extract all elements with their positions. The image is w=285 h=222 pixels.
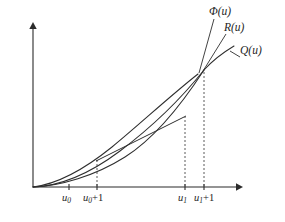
tick-label-u0: u0 [62,193,71,204]
x-axis-arrowhead [236,183,243,191]
tick-label-u1-subscript: 1 [183,196,187,205]
tick-label-u1: u1 [178,193,187,204]
leader-line-r [203,34,226,71]
curve-q-tail [204,46,234,70]
curve-r [33,70,204,187]
curve-label-r: R(u) [224,22,244,34]
curve-label-q: Q(u) [240,45,262,57]
tick-label-u0-subscript: 0 [67,196,71,205]
figure-container: Φ(u) R(u) Q(u) u0 u0+1 u1 u1+1 [0,0,285,222]
y-axis-arrowhead [29,22,36,29]
tick-label-u0-plus-1-suffix: +1 [92,192,103,203]
curve-q [33,70,204,187]
tick-label-u1-plus-1-suffix: +1 [203,192,214,203]
curve-label-phi: Φ(u) [209,6,231,18]
tick-label-u1-plus-1-subscript: 1 [199,196,203,205]
curve-phi [33,74,198,187]
leader-line-q [230,51,240,57]
tick-label-u0-plus-1-subscript: 0 [88,196,92,205]
tick-label-u1-plus-1: u1+1 [194,193,214,204]
tick-label-u0-plus-1: u0+1 [83,193,103,204]
